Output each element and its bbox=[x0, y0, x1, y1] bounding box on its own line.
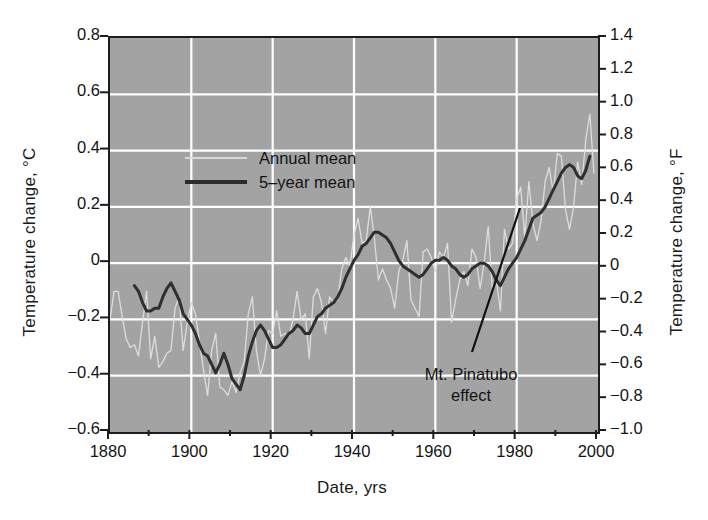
x-axis-title: Date, yrs bbox=[108, 478, 596, 498]
y-axis-right-tick-label: 1.2 bbox=[610, 58, 670, 77]
legend-item-five-year-mean: 5–year mean bbox=[185, 170, 415, 194]
y-axis-left-tick-label: 0.8 bbox=[40, 25, 100, 44]
legend-swatch-annual-mean bbox=[185, 152, 247, 164]
y-axis-left-tick-label: 0.2 bbox=[40, 194, 100, 213]
x-axis-tick-label: 1880 bbox=[73, 442, 143, 461]
y-axis-right-tick-label: 0 bbox=[610, 255, 670, 274]
x-axis-tick-label: 1940 bbox=[317, 442, 387, 461]
y-axis-right-tick-label: −0.2 bbox=[610, 288, 670, 307]
y-axis-left-tick-label: 0.6 bbox=[40, 81, 100, 100]
y-axis-left-title: Temperature change, °C bbox=[20, 92, 40, 392]
annotation-line-2: effect bbox=[378, 385, 564, 406]
legend-label-five-year-mean: 5–year mean bbox=[259, 173, 355, 192]
y-axis-right-tick-label: 0.6 bbox=[610, 156, 670, 175]
x-axis-tick-label: 2000 bbox=[561, 442, 631, 461]
annotation-line-1: Mt. Pinatubo bbox=[378, 364, 564, 385]
y-axis-right-tick-label: 1.0 bbox=[610, 91, 670, 110]
y-axis-left-tick-label: −0.6 bbox=[40, 419, 100, 438]
y-axis-right-tick-label: 0.8 bbox=[610, 124, 670, 143]
legend: Annual mean 5–year mean bbox=[185, 146, 415, 194]
legend-label-annual-mean: Annual mean bbox=[259, 149, 356, 168]
y-axis-left-tick-label: 0 bbox=[40, 250, 100, 269]
x-axis-tick-label: 1960 bbox=[398, 442, 468, 461]
y-axis-right-title: Temperature change, °F bbox=[667, 92, 687, 392]
y-axis-right-tick-label: −0.8 bbox=[610, 386, 670, 405]
x-axis-tick-label: 1900 bbox=[154, 442, 224, 461]
y-axis-right-tick-label: −1.0 bbox=[610, 419, 670, 438]
y-axis-right-tick-label: −0.6 bbox=[610, 353, 670, 372]
y-axis-right-tick-label: 0.4 bbox=[610, 189, 670, 208]
x-axis-tick-label: 1980 bbox=[480, 442, 550, 461]
legend-swatch-five-year-mean bbox=[185, 176, 247, 188]
y-axis-left-tick-label: 0.4 bbox=[40, 138, 100, 157]
temperature-anomaly-chart: Temperature change, °C Temperature chang… bbox=[0, 0, 708, 520]
x-axis-tick-label: 1920 bbox=[236, 442, 306, 461]
y-axis-right-tick-label: −0.4 bbox=[610, 321, 670, 340]
y-axis-right-tick-label: 1.4 bbox=[610, 25, 670, 44]
legend-item-annual-mean: Annual mean bbox=[185, 146, 415, 170]
annotation-mt-pinatubo: Mt. Pinatubo effect bbox=[378, 364, 564, 406]
y-axis-right-tick-label: 0.2 bbox=[610, 222, 670, 241]
y-axis-left-tick-label: −0.2 bbox=[40, 306, 100, 325]
y-axis-left-tick-label: −0.4 bbox=[40, 363, 100, 382]
